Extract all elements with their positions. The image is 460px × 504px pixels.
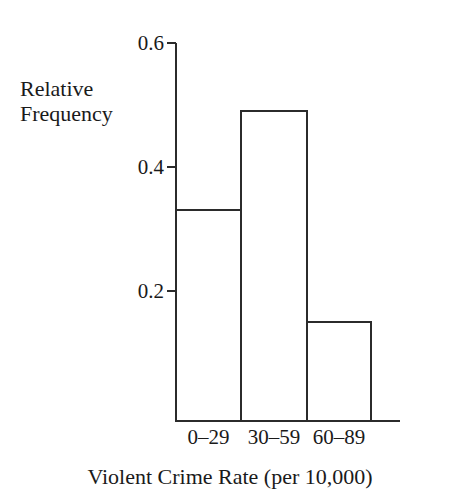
bar-0-29[interactable] xyxy=(176,210,241,421)
y-tick-label-0.6: 0.6 xyxy=(104,33,164,54)
y-tick-label-0.2: 0.2 xyxy=(104,281,164,302)
x-axis-title: Violent Crime Rate (per 10,000) xyxy=(0,464,460,490)
bar-30-59[interactable] xyxy=(241,111,307,421)
y-axis-title-line-1: Relative xyxy=(20,76,145,101)
bar-60-89[interactable] xyxy=(307,322,371,421)
x-category-label-30-59: 30–59 xyxy=(241,427,307,448)
y-tick-label-0.4: 0.4 xyxy=(104,157,164,178)
x-category-label-60-89: 60–89 xyxy=(307,427,371,448)
x-category-label-0-29: 0–29 xyxy=(176,427,241,448)
bars-group xyxy=(176,111,371,421)
histogram-figure: 0.6 0.4 0.2 Relative Frequency 0–29 30–5… xyxy=(0,0,460,504)
y-axis-title: Relative Frequency xyxy=(20,76,145,126)
y-axis-title-line-2: Frequency xyxy=(20,101,145,126)
